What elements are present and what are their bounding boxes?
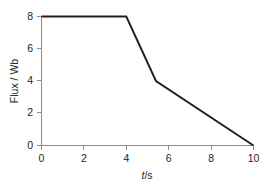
flux-time-line-chart: 8 6 4 2 0 0 2 4 6 8 10 Flux / Wb t/s [0, 0, 266, 184]
x-axis-ticks [42, 146, 254, 151]
x-tick-label-2: 2 [81, 152, 87, 164]
x-tick-label-0: 0 [39, 152, 45, 164]
y-tick-label-4: 4 [27, 74, 33, 86]
x-tick-label-8: 8 [208, 152, 214, 164]
chart-container: 8 6 4 2 0 0 2 4 6 8 10 Flux / Wb t/s [0, 0, 266, 184]
x-tick-label-10: 10 [248, 152, 260, 164]
x-axis-title-unit: /s [144, 169, 152, 181]
y-tick-label-8: 8 [27, 10, 33, 22]
x-tick-label-6: 6 [166, 152, 172, 164]
y-axis-ticks [37, 17, 42, 146]
y-tick-label-2: 2 [27, 106, 33, 118]
x-tick-label-4: 4 [123, 152, 129, 164]
y-tick-label-0: 0 [27, 139, 33, 151]
x-axis-title: t/s [141, 169, 152, 181]
y-tick-label-6: 6 [27, 42, 33, 54]
y-axis-title: Flux / Wb [8, 59, 20, 103]
flux-data-line [42, 17, 254, 146]
